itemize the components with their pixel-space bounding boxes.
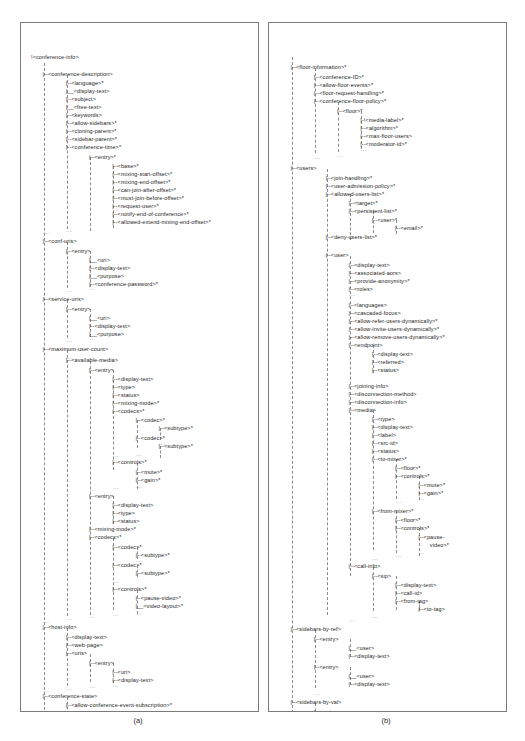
- tree-node: |--<allow-invite-users-dynamically>*: [349, 326, 440, 333]
- tree-node: |--<sidebars-by-val>: [291, 699, 342, 706]
- tree-node: |--<referred>: [372, 359, 404, 366]
- tree-node: |--<moderator-id>*: [360, 141, 407, 148]
- tree-node: |__<free-text>: [66, 104, 102, 111]
- tree-node: |--<type>: [372, 416, 395, 423]
- tree-node: |--<display-text>: [349, 262, 390, 269]
- tree-node: |--<subject>: [66, 96, 96, 103]
- tree-node: |--<floor-information>*: [291, 64, 347, 71]
- tree-node: |--<conference-password>*: [89, 281, 158, 288]
- tree-node: |--<floor>*: [337, 108, 363, 115]
- tree-node: |--<floor>*: [395, 517, 421, 524]
- tree-ellipsis: ...: [113, 485, 119, 490]
- tree-node: |--<subtype>*: [135, 552, 169, 559]
- tree-node: |--<allowed-extend-mixing-end-offset>*: [112, 219, 211, 226]
- tree-ellipsis: ...: [113, 683, 119, 688]
- tree-node: |--<floor-request-handling>*: [314, 90, 384, 97]
- tree-node: |--<display-text>: [372, 351, 413, 358]
- tree-ellipsis: ...: [372, 556, 378, 561]
- tree-ellipsis: ...: [113, 612, 119, 617]
- tree-node: |--<target>*: [349, 200, 378, 207]
- tree-node: |--<floor>*: [395, 465, 421, 472]
- tree-node: |--<controls>*: [395, 525, 429, 532]
- tree-node: |--<subtype>*: [159, 425, 193, 432]
- tree-node: |--<codecs>*: [89, 534, 121, 541]
- tree-node: |__<purpose>: [89, 331, 124, 338]
- tree-node: |--<notify-end-of-conference>*: [112, 211, 189, 218]
- tree-node: |--<display-text>: [89, 265, 130, 272]
- tree-node: |--<cloning-parent>*: [66, 128, 117, 135]
- tree-node: |--<allow-floor-events>*: [314, 82, 373, 89]
- tree-node: |--<gain>*: [135, 477, 160, 484]
- tree-node: |--<sidebar-parent>*: [66, 136, 117, 143]
- tree-node: |--<disconnection-method>: [349, 391, 417, 398]
- tree-ellipsis: ...: [66, 338, 72, 343]
- tree-ellipsis: ...: [136, 611, 142, 616]
- tree-node: |--<entry>: [89, 367, 114, 374]
- tree-node: |--<allow-remove-users-dynamically>*: [349, 334, 445, 341]
- tree-rail: [292, 57, 293, 712]
- tree-node: |--<to-tag>: [418, 606, 445, 613]
- tree-node: |--<conference-description>: [43, 71, 113, 78]
- tree-node: |--<label>: [372, 432, 396, 439]
- tree-ellipsis: ...: [396, 553, 402, 558]
- tree-node: |--<uris>: [66, 650, 87, 657]
- tree-node: |--<subtype>*: [159, 443, 193, 450]
- tree-node: |--<src-id>: [372, 440, 398, 447]
- tree-node: |--<max-floor-users>: [360, 133, 412, 140]
- tree-node: |--<base>*: [112, 163, 139, 170]
- tree-node: |--<user>*: [372, 217, 397, 224]
- tree-node: |--<status>: [112, 392, 139, 399]
- tree-ellipsis: ...: [349, 292, 355, 297]
- tree-node: |--<controls>*: [112, 459, 146, 466]
- tree-ellipsis: ...: [66, 686, 72, 691]
- tree-node: |--<endpoint>: [349, 342, 383, 349]
- tree-ellipsis: ...: [90, 614, 96, 619]
- tree-ellipsis: ...: [338, 153, 344, 158]
- tree-node: |--<to-mixer>*: [372, 456, 407, 463]
- tree-node: |--<display-text>: [89, 323, 130, 330]
- tree-node: |--<entry>: [314, 664, 339, 671]
- tree-rail: [137, 420, 138, 448]
- tree-rail: [373, 410, 374, 550]
- tree-node: |--<mixing-end-offset>*: [112, 179, 170, 186]
- tree-node: |--<display-text>: [66, 634, 107, 641]
- tree-rail: [67, 350, 68, 616]
- tree-node: |--<type>: [112, 510, 135, 517]
- tree-node: |--<request-user>*: [112, 203, 159, 210]
- tree-ellipsis: ...: [90, 487, 96, 492]
- tree-node: |--<must-join-before-offset>*: [112, 195, 184, 202]
- tree-ellipsis: ...: [43, 230, 49, 235]
- tree-node: |--<conference-state>: [43, 693, 98, 700]
- tree-ellipsis: ...: [349, 617, 355, 622]
- tree-node: |--<user-count>: [66, 710, 105, 712]
- tree-b: ........................................…: [269, 23, 506, 711]
- tree-node: |--<controls>*: [112, 586, 146, 593]
- tree-node: |--<user-admission-policy>*: [325, 183, 395, 190]
- tree-node: |--<disconnection-info>: [349, 399, 407, 406]
- tree-node: |--<join-handling>*: [325, 175, 372, 182]
- tree-node: |__<purpose>: [89, 273, 124, 280]
- tree-node: |--<type>: [112, 384, 135, 391]
- tree-node: |--<pause-: [418, 534, 444, 541]
- tree-ellipsis: ...: [419, 496, 425, 501]
- tree-node: |--<mute>*: [135, 469, 162, 476]
- tree-node: |--<allow-refer-users-dynamically>*: [349, 318, 438, 325]
- tree-node: |--<display-text>: [349, 653, 390, 660]
- tree-node: |--<conference-ID>*: [314, 74, 364, 81]
- tree-node: |--<keywords>: [66, 112, 102, 119]
- tree-node: |--<status>: [112, 518, 139, 525]
- tree-ellipsis: ...: [419, 550, 425, 555]
- tree-ellipsis: ...: [361, 147, 367, 152]
- tree-node: |--<gain>*: [418, 490, 443, 497]
- tree-node: |--<entry>: [66, 306, 91, 313]
- tree-node: |--<languages>: [349, 302, 387, 309]
- tree-node: |--<provide-anonymity>*: [349, 278, 410, 285]
- tree-rail: [90, 654, 91, 682]
- tree-node: |__<uri>: [89, 257, 110, 264]
- panel-a-caption: (a): [108, 716, 168, 725]
- tree-node: |--<algorithm>*: [360, 125, 398, 132]
- tree-node: |--<cascaded-focus>: [349, 310, 401, 317]
- tree-node: |--<web-page>: [66, 642, 103, 649]
- tree-node: |--<pause-video>*: [135, 595, 181, 602]
- panel-b-floor-information: ........................................…: [268, 22, 507, 712]
